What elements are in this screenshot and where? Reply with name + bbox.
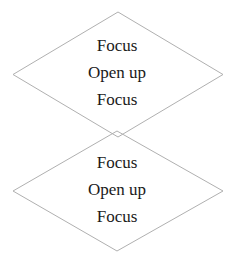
bottom-diamond-line-2: Open up — [0, 176, 234, 203]
top-diamond-line-1: Focus — [0, 32, 234, 59]
top-diamond-line-2: Open up — [0, 59, 234, 86]
bottom-diamond-line-3: Focus — [0, 203, 234, 230]
diagram-canvas: Focus Open up Focus Focus Open up Focus — [0, 0, 234, 262]
top-diamond-line-3: Focus — [0, 86, 234, 113]
bottom-diamond-line-1: Focus — [0, 149, 234, 176]
